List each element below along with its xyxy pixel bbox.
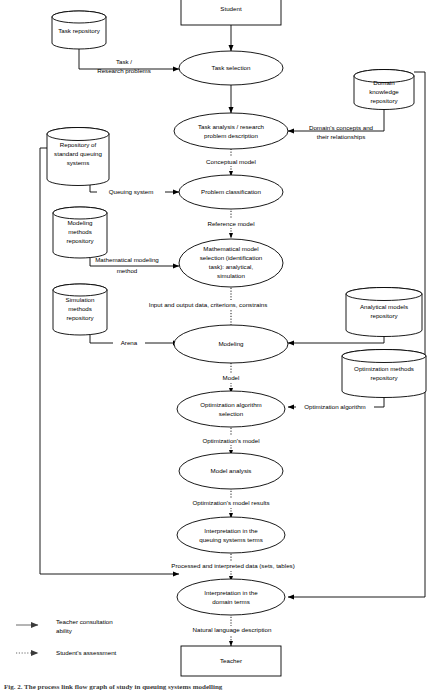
node-analytical-models-label-1: repository — [370, 312, 398, 319]
legend-teacher-consultation-1: ability — [56, 627, 73, 634]
label-optimizations-model: Optimization's model — [194, 436, 268, 445]
node-math-model-label-0: Mathematical model — [203, 245, 258, 252]
label-task-research-problems-1: Research problems — [97, 67, 151, 74]
label-input-output-data: Input and output data, criterions, const… — [108, 300, 308, 310]
node-task-repository-label-0: Task repository — [58, 27, 101, 34]
label-mathematical-modeling-method: Mathematical modeling method — [95, 256, 159, 274]
node-task-selection[interactable]: Task selection — [179, 51, 283, 85]
node-optimization-selection-label-1: selection — [219, 410, 244, 417]
label-optimizations-model-results-0: Optimization's model results — [192, 499, 269, 506]
label-natural-language-description: Natural language description — [177, 626, 287, 635]
label-math-modeling-method-1: method — [117, 267, 138, 274]
label-task-research-problems-0: Task / — [116, 58, 132, 65]
node-interpretation-queuing-label-0: Interpretation in the — [204, 527, 258, 534]
label-domains-concepts: Domain's concepts and their relationship… — [309, 124, 374, 140]
node-analytical-models-label-0: Analytical models — [360, 303, 408, 310]
label-model: Model — [212, 374, 250, 383]
diagram-page: Student Task repository Domain knowledge… — [0, 0, 432, 690]
node-math-model-label-3: simulation — [217, 272, 245, 279]
node-teacher-label: Teacher — [220, 657, 242, 664]
node-interpretation-domain-label-1: domain terms — [212, 598, 249, 605]
node-optimization-methods-repository[interactable]: Optimization methods repository — [342, 350, 426, 398]
node-interpretation-queuing[interactable]: Interpretation in the queuing systems te… — [177, 517, 285, 553]
label-conceptual-model-0: Conceptual model — [206, 158, 256, 165]
node-simulation-methods-label-0: Simulation — [66, 296, 95, 303]
node-interpretation-domain[interactable]: Interpretation in the domain terms — [177, 579, 285, 615]
node-optimization-selection-label-0: Optimization algorithm — [200, 401, 262, 408]
node-modeling-methods-label-1: methods — [68, 228, 92, 235]
node-standard-queuing-label-2: systems — [67, 159, 90, 166]
node-standard-queuing-label-1: standard queuing — [54, 150, 102, 157]
label-processed-interpreted-data-0: Processed and interpreted data (sets, ta… — [171, 562, 294, 569]
node-simulation-methods-label-2: repository — [66, 314, 94, 321]
node-interpretation-queuing-label-1: queuing systems terms — [199, 536, 263, 543]
label-task-research-problems: Task / Research problems — [97, 58, 151, 74]
label-arena: Arena — [113, 339, 145, 348]
node-optimization-methods-label-1: repository — [370, 374, 398, 381]
node-math-model-label-2: task): analytical, — [209, 263, 254, 270]
node-model-analysis-label-0: Model analysis — [211, 467, 252, 474]
node-task-analysis-label-0: Task analysis / research — [198, 123, 265, 130]
label-optimizations-model-results: Optimization's model results — [180, 499, 282, 508]
node-problem-classification[interactable]: Problem classification — [179, 175, 283, 209]
legend-teacher-consultation-0: Teacher consultation — [56, 618, 113, 625]
node-optimization-algorithm-selection[interactable]: Optimization algorithm selection — [177, 391, 285, 427]
node-modeling-methods-label-2: repository — [66, 237, 94, 244]
node-task-analysis[interactable]: Task analysis / research problem descrip… — [174, 113, 288, 149]
label-conceptual-model: Conceptual model — [196, 157, 266, 166]
node-domain-knowledge-repository[interactable]: Domain knowledge repository — [354, 70, 414, 110]
label-arena-0: Arena — [121, 339, 138, 346]
node-optimization-methods-label-0: Optimization methods — [354, 365, 414, 372]
node-standard-queuing-label-0: Repository of — [60, 141, 97, 148]
figure-caption-text: Fig. 2. The process link flow graph of s… — [4, 683, 223, 690]
node-interpretation-domain-label-0: Interpretation in the — [204, 589, 258, 596]
label-domains-concepts-0: Domain's concepts and — [309, 124, 374, 131]
legend-students-assessment-0: Student's assessment — [56, 649, 117, 656]
label-processed-interpreted-data: Processed and interpreted data (sets, ta… — [152, 562, 314, 571]
figure-caption: Fig. 2. The process link flow graph of s… — [4, 683, 223, 690]
node-task-analysis-label-1: problem description — [204, 132, 259, 139]
label-optimizations-model-0: Optimization's model — [202, 437, 259, 444]
node-modeling-methods-label-0: Modeling — [67, 219, 93, 226]
node-teacher[interactable]: Teacher — [181, 646, 281, 676]
node-model-analysis[interactable]: Model analysis — [179, 453, 283, 489]
label-optimization-algorithm: Optimization algorithm — [296, 403, 374, 412]
label-reference-model-0: Reference model — [207, 220, 254, 227]
node-modeling[interactable]: Modeling — [174, 325, 288, 363]
node-math-model-selection[interactable]: Mathematical model selection (identifica… — [179, 239, 283, 287]
node-task-selection-label-0: Task selection — [212, 64, 251, 71]
node-modeling-methods-repository[interactable]: Modeling methods repository — [53, 207, 107, 258]
node-student[interactable]: Student — [181, 0, 281, 25]
node-task-repository[interactable]: Task repository — [52, 11, 106, 49]
node-math-model-label-1: selection (identification — [200, 254, 263, 261]
node-problem-classification-label-0: Problem classification — [201, 188, 261, 195]
node-modeling-label-0: Modeling — [218, 340, 244, 347]
label-optimization-algorithm-0: Optimization algorithm — [304, 403, 366, 410]
legend: Teacher consultation ability Student's a… — [16, 618, 117, 656]
node-domain-knowledge-label-2: repository — [370, 97, 398, 104]
flowchart-canvas: Student Task repository Domain knowledge… — [0, 0, 432, 690]
label-model-0: Model — [223, 374, 240, 381]
node-domain-knowledge-label-1: knowledge — [369, 88, 399, 95]
node-domain-knowledge-label-0: Domain — [373, 79, 395, 86]
node-analytical-models-repository[interactable]: Analytical models repository — [346, 288, 422, 337]
label-queuing-system-0: Queuing system — [109, 188, 154, 195]
label-reference-model: Reference model — [198, 219, 264, 228]
label-math-modeling-method-0: Mathematical modeling — [95, 256, 159, 263]
label-domains-concepts-1: their relationships — [317, 133, 366, 140]
node-standard-queuing-repository[interactable]: Repository of standard queuing systems — [47, 128, 109, 186]
label-input-output-data-0: Input and output data, criterions, const… — [149, 301, 268, 308]
node-simulation-methods-label-1: methods — [68, 305, 92, 312]
node-simulation-methods-repository[interactable]: Simulation methods repository — [53, 284, 107, 335]
node-student-label: Student — [220, 5, 242, 12]
label-queuing-system: Queuing system — [97, 188, 165, 197]
label-natural-language-description-0: Natural language description — [193, 626, 272, 633]
